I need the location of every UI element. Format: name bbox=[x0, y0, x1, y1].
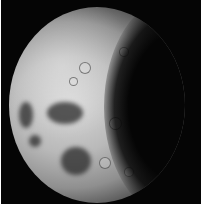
crater bbox=[69, 77, 78, 86]
terminator-shadow bbox=[104, 7, 185, 203]
crater bbox=[79, 62, 91, 74]
moon-disc bbox=[9, 7, 185, 203]
crater bbox=[99, 157, 111, 169]
mare-patch bbox=[61, 147, 91, 175]
moon-photo bbox=[1, 0, 201, 204]
mare-patch bbox=[29, 135, 41, 147]
mare-patch bbox=[47, 102, 83, 124]
mare-patch bbox=[19, 102, 33, 128]
